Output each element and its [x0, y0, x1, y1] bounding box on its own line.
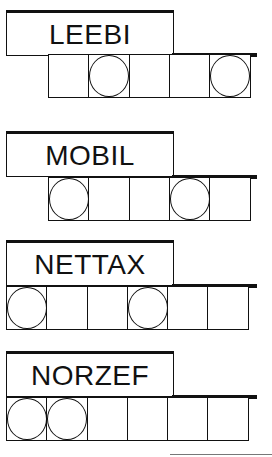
letter-cell-2-circled[interactable]	[88, 54, 130, 98]
letter-cell-2[interactable]	[46, 286, 88, 330]
letter-cell-5[interactable]	[209, 177, 251, 221]
answer-letter-row	[48, 54, 251, 98]
circle-marker-icon	[49, 178, 89, 220]
letter-cell-5[interactable]	[167, 397, 209, 441]
scrambled-word-box: MOBIL	[6, 131, 174, 177]
circle-marker-icon	[7, 398, 47, 440]
letter-cell-3[interactable]	[129, 54, 171, 98]
circle-marker-icon	[47, 398, 87, 440]
scrambled-word: MOBIL	[45, 142, 135, 170]
letter-cell-4-circled[interactable]	[127, 286, 169, 330]
letter-cell-1[interactable]	[48, 54, 90, 98]
circle-marker-icon	[170, 178, 210, 220]
letter-cell-3[interactable]	[87, 397, 129, 441]
circle-marker-icon	[89, 55, 129, 97]
circle-marker-icon	[210, 55, 250, 97]
letter-cell-5-circled[interactable]	[209, 54, 251, 98]
scrambled-word-box: NETTAX	[6, 240, 174, 286]
letter-cell-4[interactable]	[169, 54, 211, 98]
letter-cell-4[interactable]	[127, 397, 169, 441]
scrambled-word-box: LEEBI	[6, 10, 174, 56]
scrambled-word: LEEBI	[49, 21, 131, 49]
bottom-divider-rule	[170, 454, 272, 455]
scrambled-word: NORZEF	[31, 362, 149, 390]
letter-cell-6[interactable]	[207, 397, 249, 441]
letter-cell-1-circled[interactable]	[6, 397, 48, 441]
scrambled-word-box: NORZEF	[6, 351, 174, 397]
answer-letter-row	[6, 286, 249, 330]
letter-cell-3[interactable]	[87, 286, 129, 330]
letter-cell-3[interactable]	[129, 177, 171, 221]
circle-marker-icon	[7, 287, 47, 329]
letter-cell-5[interactable]	[167, 286, 209, 330]
letter-cell-4-circled[interactable]	[169, 177, 211, 221]
letter-cell-1-circled[interactable]	[6, 286, 48, 330]
letter-cell-2-circled[interactable]	[46, 397, 88, 441]
answer-letter-row	[6, 397, 249, 441]
letter-cell-6[interactable]	[207, 286, 249, 330]
circle-marker-icon	[128, 287, 168, 329]
letter-cell-2[interactable]	[88, 177, 130, 221]
scrambled-word: NETTAX	[34, 251, 145, 279]
answer-letter-row	[48, 177, 251, 221]
letter-cell-1-circled[interactable]	[48, 177, 90, 221]
